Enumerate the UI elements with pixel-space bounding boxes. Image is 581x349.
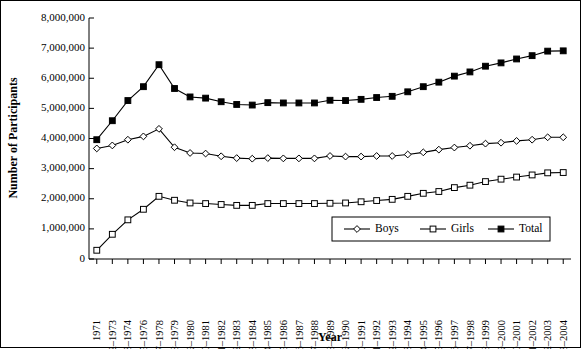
data-point-boys [327, 153, 334, 160]
data-point-girls [218, 202, 224, 208]
data-point-girls [156, 193, 162, 199]
y-axis-title: Number of Participants [6, 77, 20, 198]
data-point-total [203, 95, 209, 101]
data-point-boys [93, 145, 100, 152]
data-point-total [420, 84, 426, 90]
data-point-boys [513, 138, 520, 145]
x-tick-label: 1991–1992 [371, 320, 382, 349]
data-point-total [327, 97, 333, 103]
data-point-girls [467, 182, 473, 188]
x-tick-label: 2000–2001 [511, 320, 522, 349]
data-point-total [156, 62, 162, 68]
y-tick-label: 3,000,000 [41, 161, 86, 173]
data-point-boys [218, 153, 225, 160]
data-point-boys [358, 153, 365, 160]
data-point-total [249, 102, 255, 108]
chart-legend: BoysGirlsTotal [332, 217, 550, 241]
data-point-girls [203, 201, 209, 207]
legend-marker-girls [430, 226, 436, 232]
data-point-boys [420, 149, 427, 156]
data-point-girls [405, 193, 411, 199]
data-point-boys [404, 151, 411, 158]
x-tick-label: 1971 [91, 320, 102, 341]
data-point-total [94, 137, 100, 143]
x-tick-label: 1981–1982 [216, 320, 227, 349]
x-tick-label: 1978–1979 [169, 320, 180, 349]
data-point-girls [327, 200, 333, 206]
data-point-girls [187, 200, 193, 206]
data-point-total [234, 102, 240, 108]
data-point-girls [249, 202, 255, 208]
x-axis-title: Year [318, 330, 343, 344]
data-point-total [343, 98, 349, 104]
x-tick-label: 1993–1994 [402, 319, 413, 349]
data-point-boys [296, 155, 303, 162]
data-point-girls [312, 201, 318, 207]
data-point-girls [265, 201, 271, 207]
data-point-girls [529, 172, 535, 178]
data-point-girls [514, 174, 520, 180]
data-point-girls [483, 179, 489, 185]
legend-label-boys: Boys [375, 222, 399, 235]
data-point-girls [545, 170, 551, 176]
data-point-girls [109, 231, 115, 237]
data-point-boys [467, 142, 474, 149]
data-point-girls [141, 206, 147, 212]
data-point-total [187, 94, 193, 100]
x-tick-label: 1983–1984 [247, 319, 258, 349]
data-point-boys [342, 153, 349, 160]
data-point-girls [172, 197, 178, 203]
y-tick-label: 5,000,000 [41, 101, 86, 113]
data-point-boys [233, 155, 240, 162]
y-tick-label-group: 01,000,0002,000,0003,000,0004,000,0005,0… [41, 11, 86, 264]
data-point-girls [358, 199, 364, 205]
series-boys [93, 125, 566, 162]
data-point-girls [374, 198, 380, 204]
data-point-total [483, 63, 489, 69]
data-point-total [296, 100, 302, 106]
x-tick-label: 2001–2002 [527, 320, 538, 349]
data-point-total [498, 60, 504, 66]
series-total [94, 48, 566, 143]
x-tick-label: 1977–1978 [154, 320, 165, 349]
x-tick-mark-group [97, 259, 563, 264]
data-point-boys [482, 140, 489, 147]
data-point-boys [451, 144, 458, 151]
data-point-total [514, 56, 520, 62]
x-tick-label: 2003–2004 [558, 319, 569, 349]
x-tick-label: 1980–1981 [200, 320, 211, 349]
y-tick-label: 0 [80, 252, 86, 264]
data-point-total [389, 93, 395, 99]
data-point-total [109, 118, 115, 124]
legend-label-girls: Girls [451, 222, 475, 234]
data-point-girls [94, 247, 100, 253]
data-point-total [374, 95, 380, 101]
data-point-girls [125, 217, 131, 223]
x-tick-label: 1997–1998 [465, 320, 476, 349]
data-point-total [545, 48, 551, 54]
x-tick-label: 1999–2000 [496, 320, 507, 349]
x-tick-label: 1973–1974 [122, 319, 133, 349]
y-tick-label: 4,000,000 [41, 131, 86, 143]
y-tick-label: 1,000,000 [41, 221, 86, 233]
data-point-total [467, 69, 473, 75]
legend-label-total: Total [519, 222, 542, 234]
data-point-total [405, 89, 411, 95]
data-point-girls [280, 201, 286, 207]
data-point-boys [280, 155, 287, 162]
x-tick-label: 1994–1995 [418, 320, 429, 349]
x-tick-label: 1996–1997 [449, 320, 460, 349]
data-point-total [218, 99, 224, 105]
data-point-total [312, 100, 318, 106]
data-point-boys [249, 155, 256, 162]
y-tick-label: 7,000,000 [41, 41, 86, 53]
x-tick-label: 1998–1999 [480, 320, 491, 349]
data-point-total [172, 86, 178, 92]
data-point-boys [140, 133, 147, 140]
data-point-girls [343, 200, 349, 206]
data-point-total [451, 73, 457, 79]
data-point-boys [498, 139, 505, 146]
y-axis-title-group: Number of Participants [6, 77, 20, 198]
x-tick-label: 1990–1991 [356, 320, 367, 349]
